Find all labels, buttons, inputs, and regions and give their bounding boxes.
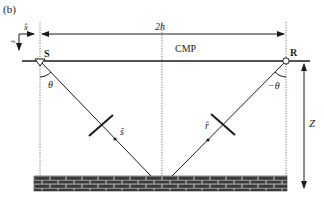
offset-label: 2h: [155, 21, 165, 32]
source-angle-label: θ: [48, 79, 53, 90]
receiver-angle-arc: [275, 72, 286, 77]
depth-label: Z: [309, 117, 316, 129]
coordinate-axes: x̂ ẑ: [9, 22, 34, 50]
source-ray-direction-dot: [113, 137, 116, 140]
cmp-diagram: (b) x̂ ẑ 2h CMP ŝ r̂ θ −θ S: [0, 0, 324, 203]
source-label: S: [44, 48, 50, 59]
receiver-ray: [172, 61, 286, 176]
cmp-label: CMP: [175, 43, 197, 54]
receiver-label: R: [290, 47, 298, 58]
source-ray: [40, 61, 151, 176]
reflector-layer: [34, 176, 287, 191]
panel-label: (b): [3, 3, 16, 16]
receiver-ray-direction-dot: [206, 138, 209, 141]
z-axis-label: ẑ: [9, 40, 17, 44]
wavefronts: [89, 114, 235, 136]
receiver-angle-label: −θ: [268, 80, 280, 91]
depth-dimension: Z: [304, 64, 316, 188]
receiver-wavefront-marker: [211, 114, 235, 135]
receiver-ray-label: r̂: [205, 120, 209, 131]
source-ray-label: ŝ: [120, 126, 124, 137]
source-angle-arc: [40, 72, 51, 77]
x-axis-label: x̂: [23, 22, 28, 32]
rays: [40, 61, 286, 176]
receiver-circle-icon: [283, 58, 289, 64]
offset-dimension: 2h: [42, 21, 284, 34]
